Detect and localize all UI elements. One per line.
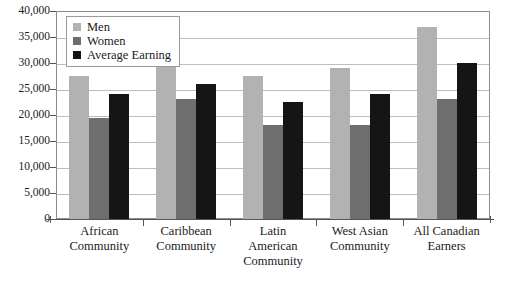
x-axis-category-label-line: Community [230,254,317,269]
x-axis-category-label-line: Community [143,239,230,254]
legend: Men Women Average Earning [66,16,180,67]
legend-swatch-women-icon [73,37,81,45]
bar [176,99,196,219]
legend-item-men: Men [73,20,171,34]
x-axis-category-label-line: Community [316,239,403,254]
legend-label-average-earning: Average Earning [87,49,171,62]
x-axis-category-label-line: Earners [403,239,490,254]
bar [89,118,109,219]
x-axis-end-tick [50,216,51,223]
bar [370,94,390,219]
bar [156,63,176,219]
bar [457,63,477,219]
legend-swatch-men-icon [73,23,81,31]
x-axis-category-label-line: West Asian [316,224,403,239]
legend-item-women: Women [73,34,171,48]
x-axis-line [46,219,494,220]
bar [196,84,216,219]
x-axis-end-tick [490,216,491,223]
bar [283,102,303,219]
x-axis-category-label-line: All Canadian [403,224,490,239]
bar [350,125,370,219]
x-axis-category-label: AfricanCommunity [56,224,143,254]
bar [109,94,129,219]
legend-swatch-average-earning-icon [73,51,81,59]
bar [330,68,350,219]
x-axis-category-label: West AsianCommunity [316,224,403,254]
x-axis-category-label-line: African [56,224,143,239]
bar [417,27,437,219]
x-axis-category-label: CaribbeanCommunity [143,224,230,254]
legend-item-average-earning: Average Earning [73,48,171,62]
legend-label-men: Men [87,21,110,34]
bar [69,76,89,219]
bar-chart: 40,00035,00030,00025,00020,00015,00010,0… [0,0,505,285]
x-axis-category-label: LatinAmericanCommunity [230,224,317,269]
legend-label-women: Women [87,35,126,48]
x-axis-category-label-line: American [230,239,317,254]
bar [243,76,263,219]
bar [263,125,283,219]
x-axis-category-label-line: Latin [230,224,317,239]
x-axis-category-label-line: Community [56,239,143,254]
bar [437,99,457,219]
x-axis-category-label: All CanadianEarners [403,224,490,254]
x-axis-category-label-line: Caribbean [143,224,230,239]
